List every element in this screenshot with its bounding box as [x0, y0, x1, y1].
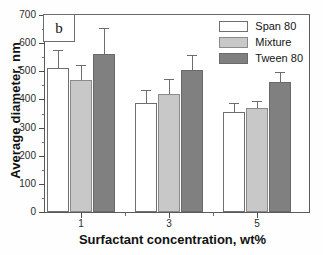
x-tick-label: 3 — [154, 219, 184, 229]
legend-item-span-80: Span 80 — [219, 19, 303, 33]
y-tick-label: 0 — [0, 207, 36, 217]
y-tick-minor — [42, 57, 46, 58]
error-bar-cap — [229, 103, 239, 104]
y-tick — [39, 212, 45, 213]
bar-span-80-3 — [135, 103, 157, 212]
legend-item-tween-80: Tween 80 — [219, 51, 303, 65]
y-tick-minor — [42, 198, 46, 199]
y-tick-label: 100 — [0, 179, 36, 189]
y-tick — [39, 156, 45, 157]
error-bar — [104, 28, 105, 54]
error-bar — [192, 55, 193, 70]
y-tick — [39, 71, 45, 72]
y-tick — [39, 99, 45, 100]
plot-area: 0100200300400500600700135 b Span 80Mixtu… — [44, 14, 310, 213]
legend-item-mixture: Mixture — [219, 35, 303, 49]
error-bar-cap — [76, 65, 86, 66]
bar-mixture-3 — [158, 94, 180, 212]
y-tick-label: 500 — [0, 66, 36, 76]
y-tick-minor — [42, 114, 46, 115]
error-bar-cap — [53, 50, 63, 51]
bar-tween-80-3 — [181, 70, 203, 212]
error-bar — [234, 103, 235, 112]
legend-swatch — [219, 21, 248, 32]
legend: Span 80MixtureTween 80 — [219, 19, 303, 67]
y-tick-label: 600 — [0, 38, 36, 48]
error-bar — [146, 90, 147, 103]
y-tick-label: 200 — [0, 151, 36, 161]
error-bar — [58, 50, 59, 69]
error-bar-cap — [187, 55, 197, 56]
x-tick-label: 1 — [66, 219, 96, 229]
figure-panel-b: Average diameter, nm Surfactant concentr… — [0, 0, 323, 255]
bar-mixture-5 — [246, 108, 268, 212]
error-bar — [169, 79, 170, 94]
x-tick-minor — [213, 212, 214, 216]
y-tick-label: 300 — [0, 123, 36, 133]
error-bar-cap — [99, 28, 109, 29]
error-bar-cap — [164, 79, 174, 80]
error-bar-cap — [275, 72, 285, 73]
bar-span-80-1 — [47, 68, 69, 212]
error-bar — [280, 72, 281, 82]
y-tick — [39, 128, 45, 129]
error-bar — [81, 65, 82, 81]
error-bar-cap — [252, 101, 262, 102]
bar-tween-80-5 — [269, 82, 291, 212]
bar-mixture-1 — [70, 80, 92, 212]
bar-span-80-5 — [223, 112, 245, 212]
panel-label: b — [43, 14, 75, 42]
x-axis-title: Surfactant concentration, wt% — [30, 232, 315, 247]
x-tick-label: 5 — [242, 219, 272, 229]
bar-tween-80-1 — [93, 54, 115, 212]
y-tick-minor — [42, 85, 46, 86]
x-tick-minor — [125, 212, 126, 216]
legend-label: Span 80 — [255, 21, 296, 32]
error-bar-cap — [141, 90, 151, 91]
y-tick — [39, 184, 45, 185]
y-tick-label: 400 — [0, 94, 36, 104]
legend-swatch — [219, 37, 248, 48]
legend-swatch — [219, 53, 248, 64]
y-tick-minor — [42, 142, 46, 143]
error-bar — [257, 101, 258, 109]
y-tick-minor — [42, 170, 46, 171]
y-tick — [39, 43, 45, 44]
legend-label: Tween 80 — [255, 53, 303, 64]
y-tick-label: 700 — [0, 10, 36, 20]
legend-label: Mixture — [255, 37, 291, 48]
